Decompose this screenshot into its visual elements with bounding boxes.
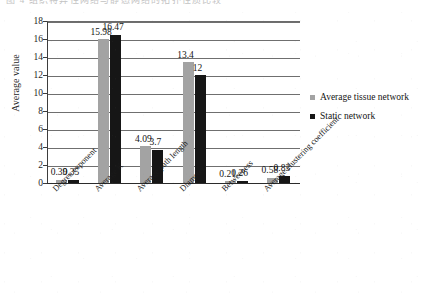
legend-swatch-icon: [310, 114, 315, 119]
legend-label: Average tissue network: [320, 92, 409, 102]
legend-swatch-icon: [310, 95, 315, 100]
bar-value-label: 3.7: [141, 138, 169, 148]
bar-value-label: 16.47: [99, 23, 127, 33]
y-axis-tick-label: 12: [21, 71, 43, 81]
x-axis-category-labels: Degree exponentAverage KAverage path len…: [47, 183, 300, 297]
y-axis-tick-labels: 024681012141618: [18, 0, 43, 297]
y-axis-tick-label: 0: [21, 179, 43, 189]
y-axis-tick-label: 14: [21, 53, 43, 63]
y-axis-tick-label: 4: [21, 143, 43, 153]
bar-chart: Average value 024681012141618 0.390.3515…: [0, 0, 436, 297]
y-axis-tick-label: 6: [21, 125, 43, 135]
bar-group: 0.210.26: [217, 22, 259, 183]
y-axis-tick-label: 10: [21, 89, 43, 99]
y-axis-tick-label: 8: [21, 107, 43, 117]
bar[interactable]: [183, 62, 194, 183]
bar-group: 15.9816.47: [90, 22, 132, 183]
y-axis-tick-label: 18: [21, 17, 43, 27]
bar-value-label: 13.4: [172, 51, 200, 61]
legend-item[interactable]: Static network: [310, 111, 434, 121]
bar-group: 13.412: [175, 22, 217, 183]
bar[interactable]: [110, 35, 121, 183]
bar-value-label: 12: [184, 64, 212, 74]
bar[interactable]: [98, 39, 109, 183]
y-axis-tick-label: 2: [21, 161, 43, 171]
legend-item[interactable]: Average tissue network: [310, 92, 434, 102]
legend: Average tissue networkStatic network: [310, 92, 434, 130]
legend-label: Static network: [320, 111, 375, 121]
y-axis-tick-label: 16: [21, 35, 43, 45]
